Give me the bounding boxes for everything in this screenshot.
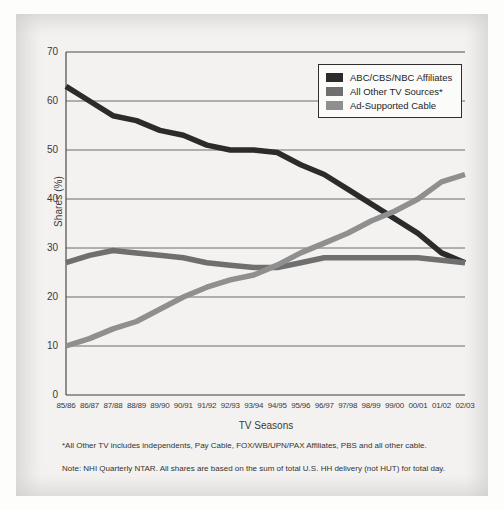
x-tick-93-94: 93/94 [242,401,266,410]
chart-page: Shares (%) TV Seasons 010203040506070 85… [0,0,504,510]
legend-label: ABC/CBS/NBC Affiliates [350,72,452,83]
legend-item-0: ABC/CBS/NBC Affiliates [326,70,452,84]
legend-swatch-icon [326,101,343,110]
x-tick-90-91: 90/91 [171,401,195,410]
x-tick-91-92: 91/92 [195,401,219,410]
x-tick-02-03: 02/03 [453,401,477,410]
x-tick-99-00: 99/00 [383,401,407,410]
y-tick-30: 30 [28,242,58,253]
y-tick-40: 40 [28,193,58,204]
x-tick-85-86: 85/86 [54,401,78,410]
footnote-all-other-tv: *All Other TV includes independents, Pay… [62,441,427,450]
y-tick-50: 50 [28,144,58,155]
y-tick-10: 10 [28,340,58,351]
x-tick-88-89: 88/89 [124,401,148,410]
x-tick-98-99: 98/99 [359,401,383,410]
y-tick-20: 20 [28,291,58,302]
y-tick-60: 60 [28,95,58,106]
footnote-note: Note: NHI Quarterly NTAR. All shares are… [62,464,445,473]
legend-label: Ad-Supported Cable [350,100,436,111]
x-tick-89-90: 89/90 [148,401,172,410]
legend-swatch-icon [326,87,343,96]
x-tick-94-95: 94/95 [265,401,289,410]
y-tick-0: 0 [28,389,58,400]
legend-swatch-icon [326,73,343,82]
y-tick-70: 70 [28,46,58,57]
legend-item-2: Ad-Supported Cable [326,98,452,112]
x-tick-92-93: 92/93 [218,401,242,410]
legend-item-1: All Other TV Sources* [326,84,452,98]
chart-legend: ABC/CBS/NBC AffiliatesAll Other TV Sourc… [318,64,462,118]
data-series-group [66,86,465,346]
series-line-1 [66,250,465,267]
x-tick-00-01: 00/01 [406,401,430,410]
legend-label: All Other TV Sources* [350,86,443,97]
x-tick-87-88: 87/88 [101,401,125,410]
x-tick-86-87: 86/87 [77,401,101,410]
x-tick-97-98: 97/98 [336,401,360,410]
x-axis-title: TV Seasons [66,420,466,431]
x-tick-96-97: 96/97 [312,401,336,410]
x-tick-01-02: 01/02 [430,401,454,410]
line-chart-figure: Shares (%) TV Seasons 010203040506070 85… [0,0,504,510]
x-tick-95-96: 95/96 [289,401,313,410]
